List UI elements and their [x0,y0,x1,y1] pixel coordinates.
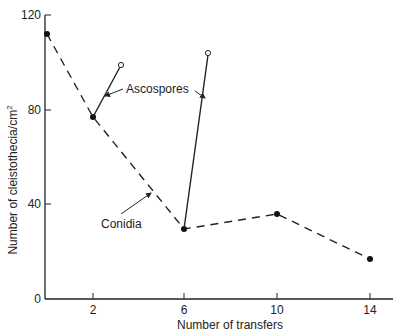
y-tick-labels: 0 40 80 120 [21,8,41,306]
chart-svg: 0 40 80 120 2 6 10 14 Number of transfer… [0,0,400,334]
x-axis-label: Number of transfers [177,318,283,332]
conidia-line [47,34,370,259]
y-tick-40: 40 [28,197,42,211]
x-tick-2: 2 [90,303,97,317]
y-tick-120: 120 [21,8,41,22]
x-tick-10: 10 [270,303,284,317]
conidia-arrow [121,193,151,214]
x-tick-labels: 2 6 10 14 [90,303,377,317]
y-tick-0: 0 [34,292,41,306]
ascospores-open-marker-2 [205,50,210,55]
x-ticks [93,293,370,299]
ascospores-open-marker-1 [118,62,123,67]
conidia-annotation: Conidia [101,217,142,231]
chart: 0 40 80 120 2 6 10 14 Number of transfer… [0,0,400,334]
y-axis-label: Number of cleistothecia/cm2 [5,105,20,255]
conidia-markers [44,31,373,262]
y-ticks [45,15,51,204]
ascospores-annotation: Ascospores [126,82,189,96]
y-tick-80: 80 [28,103,42,117]
x-tick-14: 14 [363,303,377,317]
x-tick-6: 6 [181,303,188,317]
